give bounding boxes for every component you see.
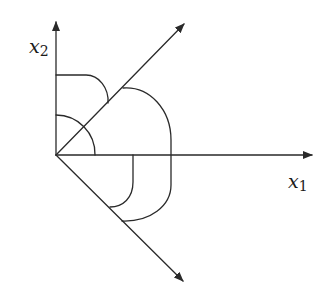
x1-label-base: x [288, 170, 299, 192]
inner-lower-arc [110, 155, 133, 207]
x1-axis-label: x1 [288, 172, 308, 193]
x1-label-subscript: 1 [299, 178, 308, 194]
cone-diagram [0, 0, 331, 302]
lower-diagonal-ray [56, 155, 183, 281]
x2-axis-label: x2 [29, 37, 49, 58]
x2-label-base: x [29, 35, 40, 57]
upper-arc [56, 75, 108, 103]
upper-diagonal-ray [56, 24, 184, 155]
x2-label-subscript: 2 [40, 43, 49, 59]
